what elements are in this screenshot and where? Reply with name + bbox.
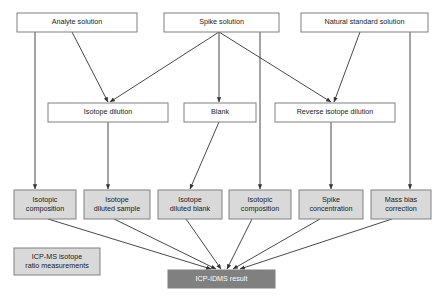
node-isotope-diluted-blank[interactable]: Isotopediluted blank bbox=[158, 190, 222, 219]
node-isotopic-composition-spike[interactable]: Isotopiccomposition bbox=[229, 190, 291, 219]
node-label-icp-ms-isotope-ratio-measurements: ratio measurements bbox=[25, 261, 89, 270]
node-label-spike-concentration: Spike bbox=[322, 195, 340, 204]
node-reverse-isotope-dilution[interactable]: Reverse isotope dilution bbox=[275, 103, 395, 122]
node-label-reverse-isotope-dilution: Reverse isotope dilution bbox=[297, 107, 374, 116]
node-natural-standard-solution[interactable]: Natural standard solution bbox=[301, 13, 428, 32]
node-icp-idms-result[interactable]: ICP-IDMS result bbox=[168, 270, 275, 288]
node-label-isotope-diluted-blank: diluted blank bbox=[170, 204, 211, 213]
edge-layer bbox=[35, 32, 410, 269]
edge-mass-bias-correction-to-result bbox=[240, 219, 392, 269]
node-label-isotopic-composition-analyte: Isotopic bbox=[33, 195, 58, 204]
flowchart-svg: Analyte solutionSpike solutionNatural st… bbox=[0, 0, 444, 299]
node-isotope-dilution[interactable]: Isotope dilution bbox=[48, 103, 168, 122]
edge-blank-to-diluted-blank bbox=[190, 122, 219, 189]
node-label-icp-ms-isotope-ratio-measurements: ICP-MS isotope bbox=[32, 252, 82, 261]
node-blank[interactable]: Blank bbox=[184, 103, 256, 122]
node-label-mass-bias-correction: correction bbox=[385, 204, 417, 213]
node-label-icp-idms-result: ICP-IDMS result bbox=[196, 274, 248, 283]
node-layer: Analyte solutionSpike solutionNatural st… bbox=[14, 13, 431, 288]
flowchart-canvas: Analyte solutionSpike solutionNatural st… bbox=[0, 0, 444, 299]
edge-isotopic-composition-spike-to-result bbox=[227, 219, 252, 269]
node-analyte-solution[interactable]: Analyte solution bbox=[17, 13, 137, 32]
node-icp-ms-isotope-ratio-measurements[interactable]: ICP-MS isotoperatio measurements bbox=[14, 248, 100, 275]
node-label-isotope-diluted-sample: Isotope bbox=[105, 195, 129, 204]
edge-analyte-to-isotope-dilution bbox=[72, 32, 108, 102]
node-isotopic-composition-analyte[interactable]: Isotopiccomposition bbox=[14, 190, 76, 219]
edge-isotope-diluted-blank-to-result bbox=[186, 219, 221, 269]
node-label-mass-bias-correction: Mass bias bbox=[385, 195, 418, 204]
node-label-isotopic-composition-spike: composition bbox=[241, 204, 279, 213]
node-spike-solution[interactable]: Spike solution bbox=[164, 13, 279, 32]
node-label-spike-solution: Spike solution bbox=[199, 17, 244, 26]
node-label-blank: Blank bbox=[211, 107, 229, 116]
node-mass-bias-correction[interactable]: Mass biascorrection bbox=[371, 190, 431, 219]
node-label-isotopic-composition-analyte: composition bbox=[26, 204, 64, 213]
node-label-analyte-solution: Analyte solution bbox=[52, 17, 103, 26]
node-label-natural-standard-solution: Natural standard solution bbox=[325, 17, 405, 26]
node-isotope-diluted-sample[interactable]: Isotopediluted sample bbox=[84, 190, 150, 219]
edge-spike-to-isotope-dilution bbox=[110, 32, 219, 102]
node-label-isotope-diluted-sample: diluted sample bbox=[94, 204, 140, 213]
node-label-isotope-dilution: Isotope dilution bbox=[84, 107, 132, 116]
edge-natural-standard-to-reverse-isotope-dilution bbox=[334, 32, 360, 102]
node-label-spike-concentration: concentration bbox=[309, 204, 352, 213]
node-label-isotope-diluted-blank: Isotope bbox=[178, 195, 202, 204]
node-label-isotopic-composition-spike: Isotopic bbox=[248, 195, 273, 204]
node-spike-concentration[interactable]: Spikeconcentration bbox=[299, 190, 363, 219]
edge-spike-to-reverse-isotope-dilution bbox=[219, 32, 331, 102]
edge-spike-concentration-to-result bbox=[233, 219, 320, 269]
